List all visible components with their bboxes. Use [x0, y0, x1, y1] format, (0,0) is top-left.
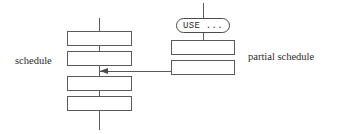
partial-schedule-box-2[interactable]	[171, 60, 235, 75]
label-partial-schedule: partial schedule	[248, 52, 314, 63]
connector-arrow-head-icon	[100, 68, 108, 74]
diagram-canvas: USE ... schedule partial schedule	[0, 0, 343, 134]
use-clause-oval[interactable]: USE ...	[176, 18, 230, 33]
schedule-box-2[interactable]	[67, 51, 132, 66]
partial-schedule-box-1[interactable]	[171, 40, 235, 55]
label-schedule: schedule	[15, 56, 52, 67]
schedule-box-3[interactable]	[67, 76, 132, 91]
connector-arrow-line	[100, 71, 171, 72]
schedule-box-1[interactable]	[67, 31, 132, 46]
schedule-box-4[interactable]	[67, 96, 132, 111]
